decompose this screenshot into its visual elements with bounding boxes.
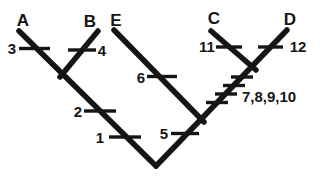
taxon-label-A: A [17,11,29,30]
tick-label-4: 4 [98,42,107,59]
taxon-label-C: C [208,9,220,28]
cladogram-figure: A B E C D 1 2 3 4 5 6 7,8,9,10 11 12 [0,0,324,176]
tick-label-12: 12 [290,38,307,55]
tick-label-5: 5 [160,125,168,142]
tick-label-7-8-9-10: 7,8,9,10 [242,88,296,105]
tick-label-1: 1 [96,129,104,146]
tick-label-6: 6 [137,69,145,86]
branch-C [211,31,256,70]
branch-B [60,31,98,77]
cladogram-canvas: A B E C D 1 2 3 4 5 6 7,8,9,10 11 12 [0,0,324,176]
taxon-label-D: D [284,10,296,29]
taxon-labels-group: A B E C D [17,9,296,31]
taxon-label-B: B [84,12,96,31]
tick-label-2: 2 [74,103,82,120]
taxon-label-E: E [110,11,121,30]
tick-label-3: 3 [8,40,16,57]
tick-label-11: 11 [199,38,215,55]
